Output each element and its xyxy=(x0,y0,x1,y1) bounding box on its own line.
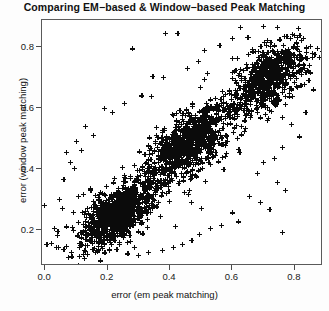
data-point xyxy=(107,221,112,226)
data-point xyxy=(194,124,199,129)
data-point xyxy=(248,85,253,90)
data-point xyxy=(267,75,272,80)
data-point xyxy=(273,97,278,102)
data-point xyxy=(120,219,125,224)
data-point xyxy=(204,135,209,140)
data-point xyxy=(252,79,257,84)
data-point xyxy=(139,193,144,198)
data-point xyxy=(105,210,110,215)
data-point xyxy=(254,60,259,65)
data-point xyxy=(112,213,117,218)
data-point xyxy=(200,141,205,146)
data-point xyxy=(181,150,186,155)
data-point xyxy=(296,63,301,68)
data-point xyxy=(107,208,112,213)
data-point xyxy=(146,192,151,197)
data-point xyxy=(117,211,122,216)
data-point xyxy=(265,72,270,77)
data-point xyxy=(120,165,125,170)
data-point xyxy=(213,117,218,122)
data-point xyxy=(194,142,199,147)
data-point xyxy=(115,213,120,218)
data-point xyxy=(130,220,135,225)
data-point xyxy=(201,120,206,125)
data-point xyxy=(139,195,144,200)
data-point xyxy=(190,134,195,139)
data-point xyxy=(220,89,225,94)
data-point xyxy=(199,128,204,133)
data-point xyxy=(187,151,192,156)
data-point xyxy=(129,196,134,201)
data-point xyxy=(247,83,252,88)
data-point xyxy=(109,220,114,225)
data-point xyxy=(104,227,109,232)
data-point xyxy=(119,196,124,201)
data-point xyxy=(154,133,159,138)
data-point xyxy=(188,117,193,122)
data-point xyxy=(191,134,196,139)
data-point xyxy=(131,208,136,213)
data-point xyxy=(125,222,130,227)
data-point xyxy=(159,193,164,198)
data-point xyxy=(134,207,139,212)
data-point xyxy=(198,150,203,155)
data-point xyxy=(251,76,256,81)
data-point xyxy=(163,165,168,170)
data-point xyxy=(102,233,107,238)
data-point xyxy=(113,213,118,218)
data-point xyxy=(288,58,293,63)
data-point xyxy=(189,151,194,156)
data-point xyxy=(252,64,257,69)
data-point xyxy=(182,133,187,138)
data-point xyxy=(292,80,297,85)
data-point xyxy=(102,203,107,208)
data-point xyxy=(121,214,126,219)
data-point xyxy=(119,222,124,227)
data-point xyxy=(270,65,275,70)
data-point xyxy=(178,133,183,138)
data-point xyxy=(161,158,166,163)
data-point xyxy=(94,205,99,210)
data-point xyxy=(282,34,287,39)
data-point xyxy=(120,194,125,199)
data-point xyxy=(113,207,118,212)
data-point xyxy=(173,152,178,157)
data-point xyxy=(164,151,169,156)
data-point xyxy=(208,126,213,131)
data-point xyxy=(164,191,169,196)
data-point xyxy=(196,138,201,143)
data-point xyxy=(168,156,173,161)
data-point xyxy=(234,92,239,97)
data-point xyxy=(125,192,130,197)
data-point xyxy=(177,160,182,165)
data-point xyxy=(242,101,247,106)
data-point xyxy=(242,104,247,109)
data-point xyxy=(190,140,195,145)
data-point xyxy=(111,193,116,198)
data-point xyxy=(303,55,308,60)
data-point xyxy=(90,217,95,222)
data-point xyxy=(297,62,302,67)
data-point xyxy=(183,149,188,154)
data-point xyxy=(145,217,150,222)
data-point xyxy=(250,47,255,52)
data-point xyxy=(299,72,304,77)
data-point xyxy=(132,201,137,206)
data-point xyxy=(182,190,187,195)
data-point xyxy=(258,80,263,85)
data-point xyxy=(116,200,121,205)
data-point xyxy=(96,230,101,235)
data-point xyxy=(181,143,186,148)
data-point xyxy=(138,180,143,185)
data-point xyxy=(278,56,283,61)
data-point xyxy=(278,77,283,82)
data-point xyxy=(96,208,101,213)
data-point xyxy=(202,142,207,147)
data-point xyxy=(246,35,251,40)
data-point xyxy=(105,222,110,227)
data-point xyxy=(144,197,149,202)
data-point xyxy=(264,52,269,57)
data-point xyxy=(259,85,264,90)
data-point xyxy=(108,233,113,238)
data-point xyxy=(221,105,226,110)
